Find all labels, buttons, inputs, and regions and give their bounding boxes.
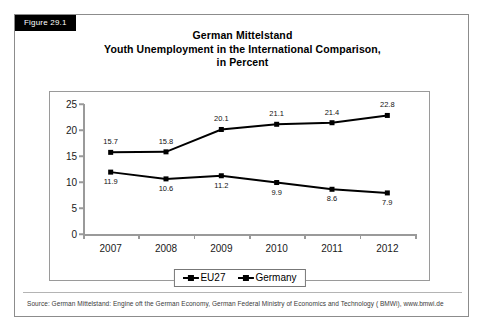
x-tick-mark xyxy=(415,234,417,239)
data-label: 22.8 xyxy=(380,100,395,109)
y-tick-label: 5 xyxy=(71,203,77,214)
data-marker xyxy=(108,150,113,155)
footer-divider xyxy=(23,292,462,293)
chart-legend: EU27Germany xyxy=(173,269,305,287)
data-marker xyxy=(330,187,335,192)
data-label: 21.4 xyxy=(325,108,340,117)
x-tick-mark xyxy=(138,234,140,239)
x-tick-label: 2010 xyxy=(266,243,288,254)
y-tick-label: 0 xyxy=(71,229,77,240)
legend-entry-eu27[interactable]: EU27 xyxy=(182,272,225,283)
figure-frame: Figure 29.1 German Mittelstand Youth Une… xyxy=(14,14,469,317)
legend-marker-icon xyxy=(237,273,253,283)
data-label: 15.7 xyxy=(103,137,118,146)
chart-title: German Mittelstand Youth Unemployment in… xyxy=(15,29,470,70)
data-marker xyxy=(164,149,169,154)
chart-title-line-3: in Percent xyxy=(15,56,470,70)
data-label: 8.6 xyxy=(327,194,337,203)
legend-marker-icon xyxy=(182,273,198,283)
data-marker xyxy=(274,180,279,185)
data-marker xyxy=(385,190,390,195)
series-line-eu27 xyxy=(111,115,388,152)
y-tick-label: 15 xyxy=(66,151,77,162)
legend-label: EU27 xyxy=(200,272,225,283)
data-label: 7.9 xyxy=(382,198,392,207)
data-marker xyxy=(219,173,224,178)
chart-title-line-1: German Mittelstand xyxy=(15,29,470,43)
y-tick-label: 25 xyxy=(66,99,77,110)
data-marker xyxy=(385,113,390,118)
chart-axes: 0510152025 200720082009201020112012 15.7… xyxy=(83,104,415,234)
x-tick-mark xyxy=(249,234,251,239)
series-line-germany xyxy=(111,172,388,193)
x-tick-mark xyxy=(194,234,196,239)
x-tick-mark xyxy=(304,234,306,239)
x-tick-label: 2008 xyxy=(155,243,177,254)
data-marker xyxy=(108,170,113,175)
legend-label: Germany xyxy=(255,272,296,283)
y-tick-label: 20 xyxy=(66,125,77,136)
x-tick-label: 2007 xyxy=(100,243,122,254)
data-marker xyxy=(274,122,279,127)
chart-title-line-2: Youth Unemployment in the International … xyxy=(15,43,470,57)
data-label: 9.9 xyxy=(271,188,281,197)
data-marker xyxy=(219,127,224,132)
data-label: 15.8 xyxy=(159,137,174,146)
y-tick-label: 10 xyxy=(66,177,77,188)
data-label: 11.2 xyxy=(214,181,228,190)
data-marker xyxy=(164,176,169,181)
x-tick-label: 2012 xyxy=(376,243,398,254)
data-label: 10.6 xyxy=(159,184,174,193)
series-lines xyxy=(83,104,415,234)
data-label: 20.1 xyxy=(214,114,229,123)
data-marker xyxy=(330,120,335,125)
x-tick-label: 2011 xyxy=(321,243,343,254)
plot-area: 0510152025 200720082009201020112012 15.7… xyxy=(49,91,430,281)
data-label: 21.1 xyxy=(269,109,284,118)
source-note: Source: German Mittelstand: Engine oft t… xyxy=(27,299,459,308)
data-label: 11.9 xyxy=(104,177,118,186)
x-tick-mark xyxy=(83,234,85,239)
legend-entry-germany[interactable]: Germany xyxy=(237,272,296,283)
x-tick-label: 2009 xyxy=(210,243,232,254)
x-tick-mark xyxy=(360,234,362,239)
